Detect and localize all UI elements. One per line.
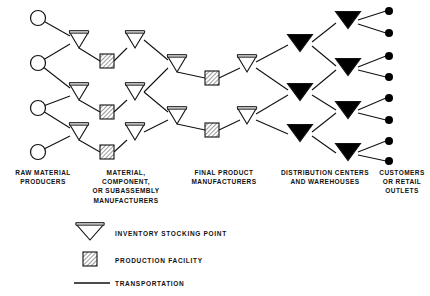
column-label-raw-material-producers: RAW MATERIAL PRODUCERS: [7, 168, 79, 186]
raw-material-producer-node[interactable]: [31, 11, 46, 26]
column-label-customers-retail-outlets: CUSTOMERS OR RETAIL OUTLETS: [375, 168, 429, 196]
inventory-stocking-point-node-cap: [238, 107, 257, 110]
customer-outlet-node[interactable]: [385, 157, 393, 165]
transportation-link: [114, 48, 127, 61]
legend-label-transportation: TRANSPORTATION: [115, 279, 185, 288]
transportation-link: [79, 140, 100, 152]
diagram-canvas: [0, 0, 430, 296]
transportation-link: [256, 68, 288, 90]
inventory-stocking-point-node[interactable]: [126, 32, 145, 48]
production-facility-node[interactable]: [100, 145, 114, 159]
production-facility-node[interactable]: [100, 54, 114, 68]
inventory-stocking-point-node-cap: [70, 31, 89, 34]
distribution-center-node[interactable]: [336, 144, 361, 161]
legend-inventory-triangle-icon[interactable]: [76, 224, 104, 240]
transportation-link: [177, 124, 205, 130]
customer-outlet-node[interactable]: [385, 94, 393, 102]
transportation-link: [256, 120, 288, 134]
production-facility-node[interactable]: [100, 105, 114, 119]
legend-production-square-icon: [83, 252, 97, 266]
legend-label-production-facility: PRODUCTION FACILITY: [115, 256, 203, 265]
transportation-link: [358, 155, 386, 161]
transportation-link: [177, 72, 205, 78]
transportation-link: [219, 68, 240, 78]
transportation-link: [79, 48, 100, 61]
transportation-link: [79, 100, 100, 112]
customer-outlet-node[interactable]: [385, 137, 393, 145]
inventory-stocking-point-node-cap: [168, 107, 187, 110]
transportation-link: [358, 98, 386, 110]
inventory-stocking-point-node-cap: [168, 55, 187, 58]
inventory-stocking-point-node-cap: [70, 83, 89, 86]
raw-material-producer-node[interactable]: [31, 56, 46, 71]
transportation-link: [358, 24, 386, 33]
legend-label-inventory-stocking-point: INVENTORY STOCKING POINT: [115, 229, 227, 238]
inventory-stocking-point-node[interactable]: [168, 56, 187, 72]
column-label-distribution-centers: DISTRIBUTION CENTERS AND WAREHOUSES: [270, 168, 380, 186]
inventory-stocking-point-node-cap: [126, 31, 145, 34]
raw-material-producer-node[interactable]: [31, 145, 46, 160]
inventory-stocking-point-node[interactable]: [126, 124, 145, 140]
legend-symbols: [74, 223, 110, 283]
inventory-stocking-point-node[interactable]: [70, 32, 89, 48]
distribution-center-node[interactable]: [336, 102, 361, 119]
distribution-center-node[interactable]: [336, 59, 361, 76]
column-label-final-product-manufacturers: FINAL PRODUCT MANUFACTURERS: [170, 168, 278, 186]
supply-chain-diagram-page: RAW MATERIAL PRODUCERS MATERIAL, COMPONE…: [0, 0, 430, 296]
distribution-center-node[interactable]: [288, 35, 313, 52]
transportation-link: [312, 70, 336, 90]
transportation-link: [358, 141, 386, 152]
transportation-link: [114, 100, 127, 112]
inventory-stocking-point-node-cap: [70, 123, 89, 126]
production-facility-node[interactable]: [205, 123, 219, 137]
distribution-center-node[interactable]: [288, 84, 313, 101]
distribution-center-node[interactable]: [336, 12, 361, 29]
transportation-link: [312, 46, 336, 66]
transportation-link: [144, 68, 168, 92]
inventory-stocking-point-node-cap: [238, 55, 257, 58]
transportation-link: [144, 120, 168, 132]
transportation-link: [358, 11, 386, 20]
production-facility-node[interactable]: [205, 71, 219, 85]
inventory-stocking-point-node[interactable]: [168, 108, 187, 124]
distribution-center-node[interactable]: [288, 125, 313, 142]
customer-outlet-node[interactable]: [385, 116, 393, 124]
column-label-component-manufacturers: MATERIAL, COMPONENT, OR SUBASSEMBLY MANU…: [80, 168, 172, 205]
transportation-link: [256, 95, 288, 114]
raw-material-producer-node[interactable]: [31, 101, 46, 116]
transportation-link: [358, 56, 386, 67]
inventory-stocking-point-node[interactable]: [238, 56, 257, 72]
inventory-stocking-point-node[interactable]: [238, 108, 257, 124]
transportation-link: [256, 45, 288, 62]
transportation-link: [114, 140, 127, 152]
transportation-link: [358, 113, 386, 120]
transportation-link: [219, 120, 240, 130]
inventory-stocking-point-node[interactable]: [126, 84, 145, 100]
inventory-stocking-point-node[interactable]: [70, 84, 89, 100]
customer-outlet-node[interactable]: [385, 29, 393, 37]
transportation-link: [312, 113, 336, 132]
transportation-link: [312, 23, 336, 42]
inventory-stocking-point-node-cap: [126, 83, 145, 86]
transportation-link: [144, 40, 168, 60]
transportation-link: [144, 92, 168, 112]
transportation-link: [312, 95, 336, 110]
customer-outlet-node[interactable]: [385, 7, 393, 15]
transportation-link: [312, 136, 336, 153]
network-nodes: [31, 7, 394, 165]
customer-outlet-node[interactable]: [385, 73, 393, 81]
transportation-links: [38, 11, 386, 161]
inventory-stocking-point-node-cap: [126, 123, 145, 126]
transportation-link: [358, 70, 386, 77]
customer-outlet-node[interactable]: [385, 52, 393, 60]
legend-inventory-triangle-icon-cap: [76, 223, 104, 226]
inventory-stocking-point-node[interactable]: [70, 124, 89, 140]
